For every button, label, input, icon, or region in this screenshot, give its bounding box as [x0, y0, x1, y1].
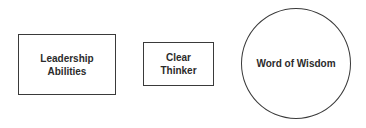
leadership-abilities-box: Leadership Abilities — [18, 34, 116, 95]
clear-thinker-label: Clear Thinker — [160, 51, 196, 77]
word-of-wisdom-label: Word of Wisdom — [256, 57, 335, 70]
leadership-abilities-label: Leadership Abilities — [40, 52, 93, 78]
word-of-wisdom-circle: Word of Wisdom — [241, 8, 351, 119]
clear-thinker-box: Clear Thinker — [143, 42, 214, 86]
